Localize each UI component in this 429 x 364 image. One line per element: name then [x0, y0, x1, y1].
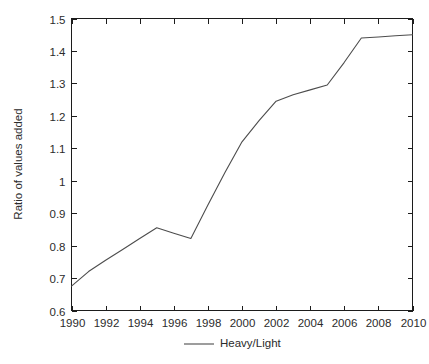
y-axis-title: Ratio of values added: [12, 108, 24, 219]
chart-figure: 0.60.70.80.911.11.21.31.41.5 19901992199…: [0, 0, 429, 364]
legend-label: Heavy/Light: [220, 337, 282, 349]
y-tick-label: 1: [59, 176, 65, 188]
y-tick-label: 1.1: [50, 143, 66, 155]
x-tick-label: 2004: [298, 317, 324, 329]
x-tick-label: 1994: [128, 317, 154, 329]
x-tick-label: 2010: [401, 317, 427, 329]
line-chart: 0.60.70.80.911.11.21.31.41.5 19901992199…: [0, 0, 429, 364]
x-tick-label: 2008: [366, 317, 392, 329]
x-tick-label: 1996: [162, 317, 188, 329]
y-tick-label: 1.4: [50, 46, 67, 58]
y-tick-label: 0.7: [50, 273, 66, 285]
y-tick-label: 0.8: [50, 241, 66, 253]
x-tick-label: 1998: [196, 317, 222, 329]
x-tick-label: 2000: [230, 317, 256, 329]
y-tick-label: 1.5: [50, 14, 66, 26]
y-tick-label: 1.2: [50, 111, 66, 123]
x-tick-label: 1992: [94, 317, 120, 329]
x-tick-label: 1990: [60, 317, 86, 329]
y-tick-label: 1.3: [50, 78, 66, 90]
x-tick-label: 2006: [332, 317, 358, 329]
y-tick-label: 0.9: [50, 208, 66, 220]
x-tick-label: 2002: [264, 317, 290, 329]
x-axis-tick-labels: 1990199219941996199820002002200420062008…: [60, 317, 427, 329]
